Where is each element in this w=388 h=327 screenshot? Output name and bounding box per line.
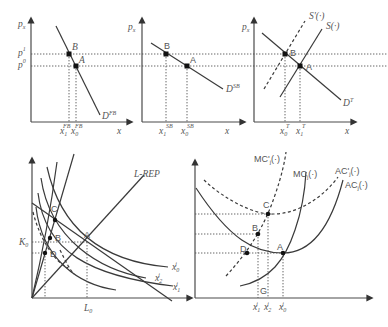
ac-label: ACj(·) [345,180,368,191]
label-d: D [240,244,247,254]
point-c [266,212,271,217]
panel-isoquants: C B A D L-REP K0 L0 x0j x2j x1j [18,154,190,314]
panel-second-best-demand: px B A DSB x1 SB x0 SB x [127,20,243,137]
curve-label-dt: DT [342,97,354,108]
quantity-sup-sb0: SB [187,123,194,129]
point-a [74,64,79,69]
l-rep-label: L-REP [133,169,160,179]
y-axis-label: px [127,22,136,33]
demand-curve-fb [56,26,100,115]
point-a [185,64,190,69]
mc-prime-label: MC'j(·) [254,154,280,165]
isoquant-label-x2: x2j [154,272,162,284]
panel-first-best-demand: px p1 p0 B A DFB x1 FB x0 FB x [17,19,388,137]
economics-diagram: px p1 p0 B A DFB x1 FB x0 FB x px B A DS… [0,0,388,327]
x-axis-label: x [224,126,230,136]
isoquant-x0 [47,167,168,267]
quantity-label-x0: x0j [278,301,286,313]
point-b [67,52,72,57]
ac-prime-curve [204,177,338,214]
label-b: B [55,233,61,243]
ac-prime-label: AC'j(·) [335,166,360,177]
y-axis-label: px [241,22,250,33]
x-axis-label: x [116,126,122,136]
y-axis-label: px [17,19,26,30]
curve-label-dfb: DFB [101,110,117,121]
quantity-sup-fb1: FB [62,123,71,129]
label-a: A [277,242,283,252]
ac-curve [196,180,343,253]
quantity-sup-sb1: SB [166,123,173,129]
x-axis-label: x [344,126,350,136]
point-b [48,236,52,240]
mc-label: MCj(·) [293,169,317,180]
label-b: B [290,48,296,58]
expansion-ray-2 [32,162,57,298]
label-g: G [260,286,267,296]
quantity-sup-fb0: FB [74,123,83,129]
label-b: B [164,41,170,51]
label-b: B [72,42,78,52]
panel-cost-curves: C B D A G MC'j(·) MCj(·) AC'j(·) ACj(·) … [195,152,370,313]
quantity-label-x1: x1j [252,301,260,313]
label-b: B [252,223,258,233]
quantity-label-x2: x2j [263,301,271,313]
curve-label-s: S(·) [326,21,339,32]
point-b [164,52,169,57]
l0-label: L0 [83,303,92,314]
point-c [53,218,57,222]
curve-label-dsb: DSB [225,83,240,94]
quantity-sup-t0: T [286,123,290,129]
price-label-p0: p0 [17,58,26,70]
quantity-sup-t1: T [302,123,306,129]
label-d: D [50,249,57,259]
isoquant-label-x0: x0j [171,261,179,273]
isoquant-label-x1: x1j [172,281,180,293]
point-d [43,251,47,255]
label-a: A [306,62,312,72]
point-a [298,64,303,69]
expansion-ray-1 [32,154,74,298]
k0-label: K0 [18,237,28,248]
label-a: A [78,55,85,65]
mc-curve [240,172,306,286]
label-a: A [84,230,90,240]
curve-label-s-prime: S'(·) [309,11,324,22]
price-label-p1: p1 [17,46,26,58]
quantity-label-x1: x1 [158,126,166,137]
label-a: A [190,55,196,65]
label-c: C [51,204,58,214]
supply-curve [280,29,322,97]
point-b [283,52,288,57]
isoquant-x2 [41,178,146,278]
label-c: C [263,200,270,210]
panel-tax-supply-demand: px B A S'(·) S(·) DT x0 T x1 T x [241,11,354,137]
